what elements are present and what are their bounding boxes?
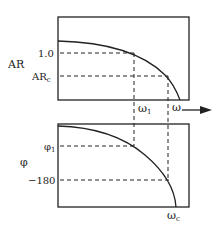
w1-label: ω: [138, 102, 147, 115]
ar-axis-label: AR: [7, 58, 25, 71]
svg-text:φ1: φ1: [44, 141, 55, 154]
wc-label: ω: [167, 209, 176, 222]
tick-phi1: φ: [44, 141, 51, 152]
ar-plot-frame: [58, 17, 189, 100]
bode-diagram: AR 1.0 ARc ω1 ω φ φ1 −180 ωc: [0, 0, 220, 229]
phi-axis-label: φ: [20, 156, 28, 169]
phase-curve: [58, 126, 176, 207]
svg-text:ω1: ω1: [138, 102, 151, 116]
svg-text:1.0: 1.0: [38, 48, 54, 59]
tick-arc: AR: [31, 71, 47, 82]
tick-m180: −180: [28, 175, 55, 186]
w-label: ω: [172, 101, 181, 114]
svg-text:−180: −180: [28, 175, 55, 186]
arrow-head-icon: [200, 106, 212, 114]
svg-text:ωc: ωc: [167, 209, 180, 223]
svg-text:φ: φ: [20, 156, 28, 169]
phase-plot-frame: [58, 124, 189, 207]
svg-text:ω: ω: [172, 101, 181, 114]
tick-1: 1.0: [38, 48, 54, 59]
svg-text:ARc: ARc: [31, 71, 51, 84]
ar-curve: [58, 41, 180, 100]
svg-text:AR: AR: [7, 58, 25, 71]
